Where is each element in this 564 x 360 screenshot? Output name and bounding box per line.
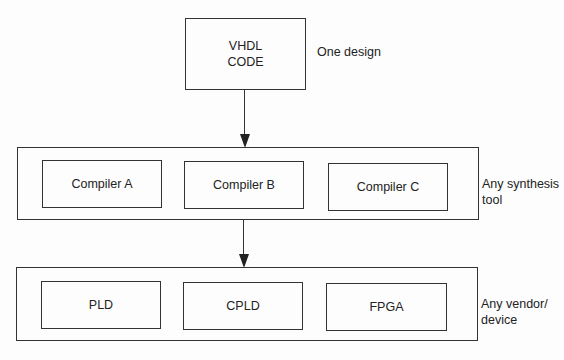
vhdl-code-line1: VHDL — [229, 38, 262, 54]
any-vendor-device-line1: Any vendor/ — [481, 296, 548, 312]
compiler-b-box: Compiler B — [184, 161, 304, 209]
vhdl-code-line2: CODE — [227, 54, 263, 70]
cpld-box: CPLD — [183, 282, 303, 330]
any-synthesis-tool-label: Any synthesis tool — [482, 176, 559, 208]
compiler-a-box: Compiler A — [42, 160, 162, 208]
arrowhead-icon — [240, 134, 250, 148]
pld-box: PLD — [41, 281, 161, 329]
compiler-c-box: Compiler C — [328, 163, 448, 211]
any-vendor-device-label: Any vendor/ device — [481, 296, 548, 328]
any-synthesis-tool-line1: Any synthesis — [482, 176, 559, 192]
one-design-label: One design — [317, 44, 381, 60]
arrow-design-to-synthesis — [244, 90, 245, 136]
fpga-box: FPGA — [326, 283, 447, 331]
arrowhead-icon — [239, 254, 249, 268]
arrow-synthesis-to-device — [243, 220, 244, 257]
any-vendor-device-line2: device — [481, 312, 548, 328]
vhdl-code-box: VHDL CODE — [185, 18, 306, 90]
any-synthesis-tool-line2: tool — [482, 192, 559, 208]
